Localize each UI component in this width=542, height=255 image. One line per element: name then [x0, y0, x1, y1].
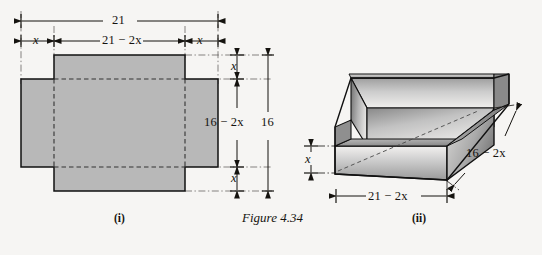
panel-ii-box	[304, 74, 521, 203]
label-right-bottom-x: x	[231, 172, 237, 185]
label-box-height-x: x	[305, 153, 311, 166]
label-inner-width: 21 − 2x	[102, 34, 142, 47]
label-top-right-x: x	[197, 34, 203, 47]
label-right-top-x: x	[231, 60, 237, 73]
label-box-depth: 16 − 2x	[466, 147, 506, 160]
panel-i-net	[21, 11, 274, 191]
label-overall-height: 16	[261, 116, 274, 129]
label-top-left-x: x	[33, 34, 39, 47]
figure-caption: Figure 4.34	[242, 210, 303, 226]
net-outline	[21, 55, 218, 191]
panel-label-ii: (ii)	[412, 212, 426, 224]
box-inner-back-face	[351, 78, 494, 108]
figure-container: 21 x 21 − 2x x x 16 − 2x x 16 x 21 − 2x …	[0, 0, 542, 255]
label-box-length: 21 − 2x	[368, 190, 408, 203]
panel-label-i: (i)	[114, 212, 125, 224]
label-overall-width: 21	[112, 14, 125, 27]
label-inner-height: 16 − 2x	[204, 116, 244, 129]
box-right-upper-outer-face	[494, 74, 509, 110]
